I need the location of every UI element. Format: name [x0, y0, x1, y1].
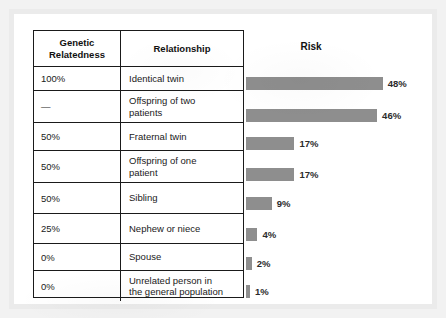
cell-relationship: Nephew or niece — [121, 214, 243, 243]
cell-relatedness: 50% — [34, 151, 121, 182]
bar — [246, 137, 294, 150]
cell-relatedness: 0% — [34, 244, 121, 270]
column-header-relationship: Relationship — [121, 31, 243, 66]
table-row: 25% Nephew or niece — [34, 214, 243, 244]
table-row: 100% Identical twin — [34, 67, 243, 91]
table-row: 50% Offspring of one patient — [34, 151, 243, 183]
cell-relationship-text-2: patient — [129, 167, 158, 178]
bar-row: 4% — [246, 228, 276, 241]
bar-value-label: 9% — [277, 198, 291, 209]
risk-table: Genetic Relatedness Relationship 100% Id… — [33, 30, 244, 298]
bar-row: 48% — [246, 77, 407, 90]
cell-relationship: Sibling — [121, 183, 243, 213]
cell-relationship-text: Offspring of one — [129, 155, 196, 166]
cell-relationship-text-2: the general population — [129, 286, 223, 297]
cell-relationship: Fraternal twin — [121, 123, 243, 150]
bar — [246, 285, 250, 298]
bar-row: 2% — [246, 257, 270, 270]
cell-relationship-text: Identical twin — [129, 73, 184, 85]
cell-relationship-text: Offspring of two — [129, 95, 195, 106]
cell-relatedness: — — [34, 91, 121, 122]
cell-relationship: Offspring of two patients — [121, 91, 243, 122]
table-row: 0% Unrelated person in the general popul… — [34, 271, 243, 301]
table-row: 50% Fraternal twin — [34, 123, 243, 151]
bar — [246, 77, 383, 90]
bar-value-label: 1% — [255, 286, 269, 297]
cell-relationship-text: Unrelated person in — [129, 275, 212, 286]
cell-relatedness: 50% — [34, 123, 121, 150]
bar — [246, 228, 257, 241]
cell-relationship: Spouse — [121, 244, 243, 270]
bar-value-label: 2% — [257, 258, 271, 269]
bar-value-label: 46% — [382, 110, 401, 121]
bar — [246, 197, 272, 210]
cell-relatedness: 50% — [34, 183, 121, 213]
bar-row: 46% — [246, 109, 401, 122]
cell-relationship-text: Sibling — [129, 192, 158, 204]
cell-relationship: Offspring of one patient — [121, 151, 243, 182]
bar-value-label: 17% — [299, 169, 318, 180]
bar-row: 17% — [246, 137, 318, 150]
bar — [246, 257, 252, 270]
bar-value-label: 48% — [388, 78, 407, 89]
bar-row: 9% — [246, 197, 290, 210]
cell-relatedness: 25% — [34, 214, 121, 243]
bar — [246, 109, 377, 122]
table-header-row: Genetic Relatedness Relationship — [34, 31, 243, 67]
table-row: — Offspring of two patients — [34, 91, 243, 123]
cell-relationship-text: Fraternal twin — [129, 131, 187, 143]
bar — [246, 168, 294, 181]
cell-relatedness: 100% — [34, 67, 121, 90]
bar-value-label: 17% — [299, 138, 318, 149]
cell-relationship-text: Spouse — [129, 251, 161, 263]
bar-row: 1% — [246, 285, 269, 298]
bar-value-label: 4% — [262, 229, 276, 240]
cell-relationship-text: Nephew or niece — [129, 223, 200, 235]
column-header-genetic-relatedness: Genetic Relatedness — [34, 31, 121, 66]
bar-chart: 48% 46% 17% 17% 9% 4% 2% 1% — [246, 30, 436, 298]
bar-row: 17% — [246, 168, 318, 181]
cell-relatedness: 0% — [34, 271, 121, 301]
table-row: 0% Spouse — [34, 244, 243, 271]
cell-relationship: Identical twin — [121, 67, 243, 90]
column-header-genetic-relatedness-line1: Genetic — [60, 37, 95, 48]
column-header-genetic-relatedness-line2: Relatedness — [49, 49, 105, 60]
table-row: 50% Sibling — [34, 183, 243, 214]
cell-relationship-text-2: patients — [129, 107, 162, 118]
cell-relationship: Unrelated person in the general populati… — [121, 271, 243, 301]
